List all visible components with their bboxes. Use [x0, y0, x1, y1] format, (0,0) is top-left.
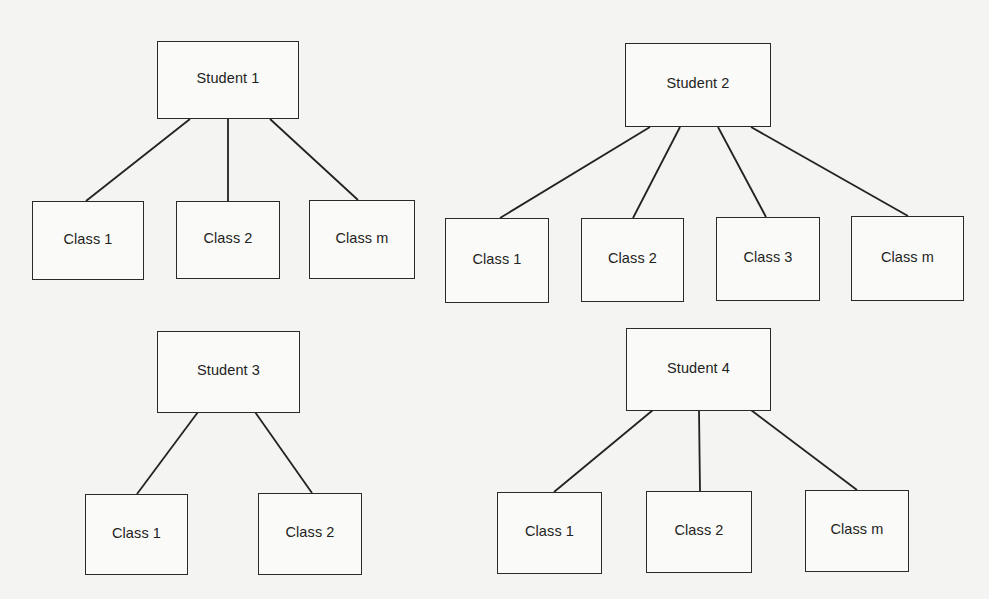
- student-2-class-node: Class m: [851, 216, 964, 301]
- student-2-class-node: Class 2: [581, 218, 684, 302]
- node-label: Class 1: [472, 251, 521, 271]
- student-3-class-node: Class 1: [85, 494, 188, 575]
- edge-student-4-to-class: [554, 410, 653, 492]
- node-label: Class 3: [743, 249, 792, 269]
- edge-student-3-to-class: [255, 412, 312, 493]
- node-label: Class 1: [525, 523, 574, 543]
- node-label: Class m: [881, 249, 934, 269]
- node-label: Class m: [830, 521, 883, 541]
- node-label: Class 1: [63, 231, 112, 251]
- student-1-class-node: Class m: [309, 200, 415, 279]
- student-4-class-node: Class 2: [646, 491, 752, 573]
- edge-student-2-to-class: [718, 127, 766, 217]
- edge-student-1-to-class: [86, 119, 190, 201]
- node-label: Class 2: [674, 522, 723, 542]
- node-label: Class 2: [608, 250, 657, 270]
- student-4-class-node: Class 1: [497, 492, 602, 574]
- student-1-class-node: Class 1: [32, 201, 144, 280]
- student-4-class-node: Class m: [805, 490, 909, 572]
- student-3-node: Student 3: [157, 331, 300, 413]
- node-label: Student 3: [197, 362, 260, 382]
- edge-student-4-to-class: [751, 410, 857, 490]
- edge-student-4-to-class: [699, 410, 700, 491]
- student-4-node: Student 4: [626, 328, 771, 411]
- node-label: Student 4: [667, 360, 730, 380]
- node-label: Class 2: [285, 524, 334, 544]
- edge-student-2-to-class: [500, 127, 650, 218]
- node-label: Student 2: [667, 75, 730, 95]
- student-class-hierarchy-diagram: Student 1Class 1Class 2Class mStudent 2C…: [0, 0, 989, 599]
- student-2-class-node: Class 1: [445, 218, 549, 303]
- node-label: Student 1: [197, 70, 260, 90]
- student-2-node: Student 2: [625, 43, 771, 127]
- edge-student-2-to-class: [751, 127, 908, 216]
- student-3-class-node: Class 2: [258, 493, 362, 575]
- student-1-class-node: Class 2: [176, 201, 280, 279]
- edge-student-1-to-class: [270, 119, 358, 200]
- student-2-class-node: Class 3: [716, 217, 820, 301]
- node-label: Class 1: [112, 525, 161, 545]
- edge-student-2-to-class: [633, 127, 680, 218]
- node-label: Class 2: [203, 230, 252, 250]
- edge-student-3-to-class: [137, 412, 198, 494]
- node-label: Class m: [335, 230, 388, 250]
- student-1-node: Student 1: [157, 41, 299, 119]
